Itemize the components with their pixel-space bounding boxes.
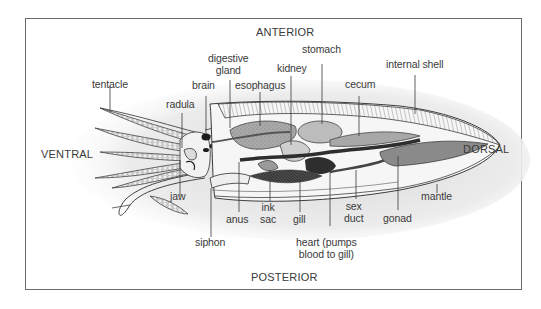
- orientation-posterior: POSTERIOR: [251, 271, 318, 283]
- label-siphon: siphon: [195, 236, 225, 248]
- label-cecum: cecum: [345, 78, 375, 90]
- label-digestive-gland-line1: digestive: [208, 52, 249, 64]
- label-jaw: jaw: [170, 190, 185, 202]
- label-digestive-gland-line2: gland: [208, 64, 249, 76]
- label-brain: brain: [192, 79, 215, 91]
- label-heart-line1: heart (pumps: [296, 236, 357, 248]
- label-internal-shell: internal shell: [386, 58, 444, 70]
- label-gonad: gonad: [383, 212, 412, 224]
- orientation-anterior: ANTERIOR: [256, 26, 314, 38]
- label-sex-duct-line2: duct: [344, 212, 363, 224]
- label-ink-sac-line2: sac: [260, 213, 276, 225]
- label-heart-line2: blood to gill): [296, 248, 357, 260]
- label-gill: gill: [293, 213, 305, 225]
- label-anus: anus: [226, 213, 248, 225]
- label-sex-duct: sex duct: [344, 200, 363, 224]
- label-digestive-gland: digestive gland: [208, 52, 249, 76]
- orientation-ventral: VENTRAL: [41, 148, 93, 160]
- orientation-dorsal: DORSAL: [463, 143, 509, 155]
- label-kidney: kidney: [277, 62, 307, 74]
- label-heart: heart (pumps blood to gill): [296, 236, 357, 260]
- brain-organ: [202, 134, 211, 141]
- label-ink-sac: ink sac: [260, 201, 276, 225]
- label-mantle: mantle: [421, 190, 452, 202]
- label-ink-sac-line1: ink: [260, 201, 276, 213]
- label-stomach: stomach: [302, 43, 341, 55]
- label-tentacle: tentacle: [92, 78, 128, 90]
- label-radula: radula: [166, 98, 195, 110]
- label-esophagus: esophagus: [235, 79, 285, 91]
- label-sex-duct-line1: sex: [344, 200, 363, 212]
